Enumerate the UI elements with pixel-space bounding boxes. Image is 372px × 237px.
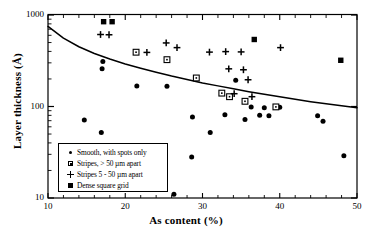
trend-curve — [48, 26, 357, 107]
legend-item-stripes-5-50um: Stripes 5 - 50 µm apart — [59, 169, 167, 180]
data-point — [341, 153, 346, 158]
y-tick-label: 100 — [8, 101, 44, 111]
data-point — [242, 117, 247, 122]
y-tick-label: 10 — [8, 192, 44, 202]
x-tick-label: 30 — [188, 201, 218, 211]
data-point — [266, 113, 271, 118]
data-point-center — [135, 51, 137, 53]
x-axis-title: As content (%) — [0, 214, 372, 226]
legend-label: Stripes 5 - 50 µm apart — [77, 170, 143, 179]
legend-item-dense-square-grid: Dense square grid — [59, 180, 167, 191]
data-point — [315, 113, 320, 118]
data-point — [338, 58, 343, 63]
data-point-center — [196, 77, 198, 79]
data-point — [257, 113, 262, 118]
x-tick-label: 20 — [110, 201, 140, 211]
scatter-chart-figure: As content (%) Layer thickness (Å) 10203… — [0, 0, 372, 237]
plus-icon — [64, 171, 77, 178]
x-tick-label: 10 — [33, 201, 63, 211]
data-point — [321, 119, 326, 124]
data-point-center — [244, 100, 246, 102]
data-point — [249, 104, 254, 109]
data-point — [208, 130, 213, 135]
trend-line — [48, 26, 357, 107]
data-point — [100, 59, 105, 64]
x-tick-label: 50 — [342, 201, 372, 211]
data-point — [134, 84, 139, 89]
data-point-center — [275, 106, 277, 108]
legend-item-smooth-with-spots-only: Smooth, with spots only — [59, 147, 167, 158]
series-3 — [101, 19, 344, 63]
data-point — [101, 19, 106, 24]
data-point — [233, 78, 238, 83]
data-point — [222, 112, 227, 117]
data-point-center — [221, 92, 223, 94]
data-point — [100, 66, 105, 71]
data-point — [190, 114, 195, 119]
chart-legend: Smooth, with spots only Stripes, > 50 µm… — [58, 143, 168, 192]
data-point-center — [229, 96, 231, 98]
data-point — [99, 130, 104, 135]
open-square-icon — [64, 161, 77, 165]
filled-circle-icon — [64, 151, 77, 155]
data-point — [109, 19, 114, 24]
data-point — [171, 192, 176, 197]
y-tick-label: 1000 — [8, 9, 44, 19]
data-point — [164, 84, 169, 89]
legend-label: Dense square grid — [77, 181, 129, 190]
data-point — [262, 105, 267, 110]
series-1 — [133, 49, 279, 109]
legend-label: Smooth, with spots only — [77, 148, 147, 157]
filled-square-icon — [64, 183, 77, 187]
data-point — [252, 37, 257, 42]
data-point — [189, 155, 194, 160]
data-point — [82, 118, 87, 123]
data-point-center — [166, 59, 168, 61]
legend-item-stripes-gt-50um: Stripes, > 50 µm apart — [59, 158, 167, 169]
x-tick-label: 40 — [265, 201, 295, 211]
legend-label: Stripes, > 50 µm apart — [77, 159, 141, 168]
